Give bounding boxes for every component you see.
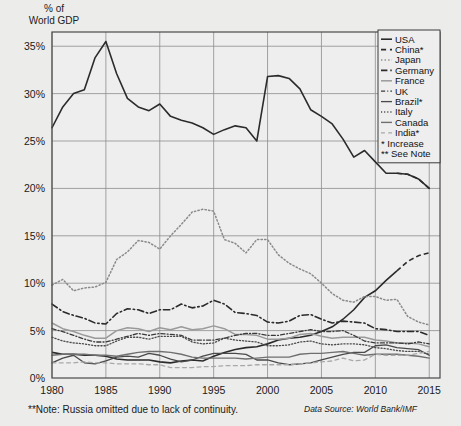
legend-label-brazil: Brazil* bbox=[395, 96, 423, 107]
y-axis-tick-label: 30% bbox=[24, 88, 45, 100]
y-axis-tick-label: 15% bbox=[24, 230, 45, 242]
y-axis-tick-label: 5% bbox=[30, 325, 45, 337]
y-axis-tick-label: 0% bbox=[30, 372, 45, 384]
x-axis-tick-label: 1985 bbox=[94, 384, 118, 396]
legend-label-india: India* bbox=[395, 127, 420, 138]
x-axis-tick-label: 1980 bbox=[40, 384, 64, 396]
world-gdp-line-chart: 0%5%10%15%20%25%30%35%198019851990199520… bbox=[0, 0, 461, 400]
legend-label-canada: Canada bbox=[395, 117, 429, 128]
x-axis-tick-label: 1990 bbox=[148, 384, 172, 396]
legend-note-1: * Increase bbox=[381, 138, 424, 149]
y-axis-tick-label: 25% bbox=[24, 135, 45, 147]
data-source-label: Data Source: World Bank/IMF bbox=[304, 404, 417, 414]
y-axis-tick-label: 10% bbox=[24, 277, 45, 289]
legend-label-france: France bbox=[395, 75, 425, 86]
legend-note-2: ** See Note bbox=[381, 148, 431, 159]
legend: USAChina*JapanGermanyFranceUKBrazil*Ital… bbox=[378, 30, 440, 163]
footnote-note: **Note: Russia omitted due to lack of co… bbox=[28, 404, 238, 415]
y-axis-tick-label: 35% bbox=[24, 40, 45, 52]
legend-label-uk: UK bbox=[395, 86, 409, 97]
x-axis-tick-label: 2000 bbox=[256, 384, 280, 396]
y-axis-tick-label: 20% bbox=[24, 182, 45, 194]
x-axis-tick-label: 1995 bbox=[202, 384, 226, 396]
legend-label-china: China* bbox=[395, 44, 424, 55]
chart-page: % of World GDP 0%5%10%15%20%25%30%35%198… bbox=[0, 0, 461, 426]
legend-label-italy: Italy bbox=[395, 106, 413, 117]
x-axis-tick-label: 2005 bbox=[310, 384, 334, 396]
x-axis-tick-label: 2010 bbox=[364, 384, 388, 396]
legend-label-germany: Germany bbox=[395, 65, 434, 76]
x-axis-tick-label: 2015 bbox=[418, 384, 442, 396]
legend-label-usa: USA bbox=[395, 34, 415, 45]
legend-label-japan: Japan bbox=[395, 54, 421, 65]
